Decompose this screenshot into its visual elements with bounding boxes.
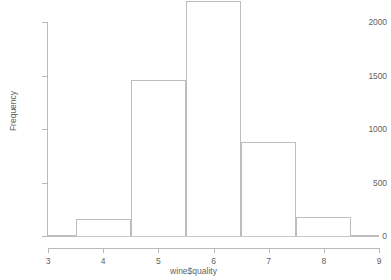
y-axis-tick (42, 76, 47, 77)
x-axis-tick (269, 248, 270, 253)
y-axis-tick-label: 500 (351, 179, 387, 187)
x-axis-tick (158, 248, 159, 253)
x-axis-tick (48, 248, 49, 253)
y-axis-tick-label: 0 (351, 232, 387, 240)
x-axis-tick-label: 5 (146, 256, 170, 266)
histogram-bar (241, 142, 296, 236)
x-axis-tick-label: 9 (367, 256, 391, 266)
x-axis-tick-label: 3 (36, 256, 60, 266)
x-axis-tick-label: 8 (312, 256, 336, 266)
histogram-bar (296, 217, 351, 236)
y-axis-tick (42, 183, 47, 184)
y-axis-tick-label: 1000 (351, 125, 387, 133)
y-axis-tick-label: 2000 (351, 18, 387, 26)
x-axis-tick (324, 248, 325, 253)
x-axis-title: wine$quality (0, 266, 387, 276)
histogram-bar (186, 1, 241, 236)
y-axis-title: Frequency (8, 76, 18, 146)
x-axis-tick (379, 248, 380, 253)
x-axis-tick-label: 6 (202, 256, 226, 266)
x-axis-tick (103, 248, 104, 253)
histogram-bar (76, 219, 131, 236)
x-axis-tick-label: 4 (91, 256, 115, 266)
y-axis-tick (42, 129, 47, 130)
x-axis-tick (214, 248, 215, 253)
histogram-bar (48, 235, 76, 237)
y-axis-line (47, 22, 48, 237)
x-axis-tick-label: 7 (257, 256, 281, 266)
y-axis-tick (42, 236, 47, 237)
y-axis-tick (42, 22, 47, 23)
y-axis-tick-label: 1500 (351, 72, 387, 80)
histogram-bar (131, 80, 186, 236)
